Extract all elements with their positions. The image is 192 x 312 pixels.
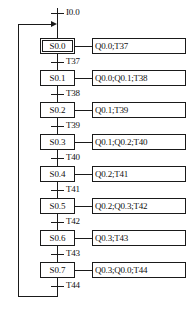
action-connector-line [75,78,92,79]
step-box-s0-2[interactable]: S0.2 [40,102,75,118]
transition-tick-t44 [51,286,64,287]
transition-tick-t38 [51,94,64,95]
transition-tick-t37 [51,62,64,63]
transition-label-t40: T40 [66,153,80,162]
action-connector-line [75,238,92,239]
step-box-s0-4[interactable]: S0.4 [40,166,75,182]
action-box-s0-0[interactable]: Q0.0;T37 [92,38,186,54]
step-box-s0-6[interactable]: S0.6 [40,230,75,246]
action-connector-line [75,270,92,271]
step-box-s0-1[interactable]: S0.1 [40,70,75,86]
action-box-s0-6[interactable]: Q0.3;T43 [92,230,186,246]
step-box-s0-0[interactable]: S0.0 [40,38,75,54]
action-box-s0-7[interactable]: Q0.3;Q0.0;T44 [92,262,186,278]
transition-label-t41: T41 [66,185,80,194]
action-connector-line [75,174,92,175]
transition-label-t39: T39 [66,121,80,130]
action-box-s0-2[interactable]: Q0.1;T39 [92,102,186,118]
transition-tick-t43 [51,254,64,255]
action-connector-line [75,46,92,47]
transition-label-t37: T37 [66,57,80,66]
step-box-s0-3[interactable]: S0.3 [40,134,75,150]
action-box-s0-4[interactable]: Q0.2;T41 [92,166,186,182]
transition-label-t42: T42 [66,217,80,226]
transition-tick-t42 [51,222,64,223]
sfc-diagram: I0.0 S0.0Q0.0;T37T37S0.1Q0.0;Q0.1;T38T38… [0,0,192,312]
action-box-s0-1[interactable]: Q0.0;Q0.1;T38 [92,70,186,86]
transition-label-t38: T38 [66,89,80,98]
transition-label-t44: T44 [66,281,80,290]
feedback-top-line [18,24,55,25]
action-box-s0-3[interactable]: Q0.1;Q0.2;T40 [92,134,186,150]
action-connector-line [75,110,92,111]
feedback-arrow-icon [51,21,57,27]
feedback-bottom-line [18,296,58,297]
entry-transition-label: I0.0 [66,8,79,17]
transition-label-t43: T43 [66,249,80,258]
action-connector-line [75,206,92,207]
step-box-s0-7[interactable]: S0.7 [40,262,75,278]
action-connector-line [75,142,92,143]
step-box-s0-5[interactable]: S0.5 [40,198,75,214]
action-box-s0-5[interactable]: Q0.2;Q0.3;T42 [92,198,186,214]
transition-tick-t40 [51,158,64,159]
transition-tick-t41 [51,190,64,191]
feedback-left-line [18,24,19,296]
transition-tick-t39 [51,126,64,127]
entry-transition-tick [51,13,64,14]
